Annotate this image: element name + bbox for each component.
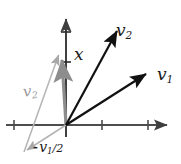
label-minus-half-v1: - v1/2 [33,140,63,156]
x-axis [6,120,167,130]
label-v1-subscript: 1 [167,73,174,85]
vector-v1 [66,74,146,125]
label-v2-subscript: 2 [126,29,133,41]
label-v1-base: v [157,64,167,84]
label-v2-translated: v2 [22,83,38,100]
label-v1: v1 [157,66,173,84]
label-minus-half-v1-base: v [39,139,47,155]
label-v2: v2 [116,22,132,40]
vector-v2-translated [24,55,59,152]
label-x-base: x [74,44,84,64]
label-x: x [74,46,84,63]
gray-construction [24,55,66,152]
label-v2-base: v [116,20,126,40]
label-v2-translated-subscript: 2 [31,89,38,101]
label-minus-half-v1-fraction: /2 [53,142,64,155]
vector-diagram-figure: v2 v1 x v2 - v1/2 [0,0,181,164]
